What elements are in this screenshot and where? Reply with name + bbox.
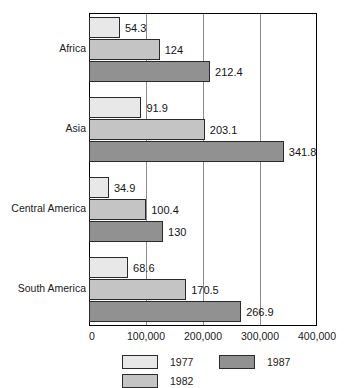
legend-swatch-1982 [122,374,158,388]
bar-value-label: 54.3 [120,22,146,33]
bar-asia-1982 [89,119,205,140]
bar-asia-1987 [89,141,284,162]
bar-value-label: 130 [163,226,186,237]
bar-value-label: 266.9 [241,306,274,317]
bar-row: 100.4 [89,199,317,220]
bar-value-label: 100.4 [146,204,179,215]
bar-africa-1982 [89,39,160,60]
bar-asia-1977 [89,97,141,118]
legend-swatch-1987 [219,355,255,369]
xtick-label-200000: 200,000 [184,330,222,342]
bar-africa-1977 [89,17,120,38]
bar-row: 130 [89,221,317,242]
bar-south-america-1977 [89,257,128,278]
bar-row: 266.9 [89,301,317,322]
category-label-africa: Africa [59,43,86,54]
bar-value-label: 68.6 [128,262,154,273]
bar-row: 212.4 [89,61,317,82]
category-label-central-america: Central America [11,203,86,214]
legend-label-1977: 1977 [170,357,193,368]
bar-value-label: 124 [160,44,183,55]
bar-value-label: 203.1 [205,124,238,135]
legend-label-1987: 1987 [267,357,290,368]
bar-row: 203.1 [89,119,317,140]
bar-value-label: 91.9 [141,102,167,113]
xtick-label-100000: 100,000 [127,330,165,342]
legend-item-1987: 1987 [219,355,290,369]
legend-item-1982: 1982 [122,374,193,388]
bar-row: 170.5 [89,279,317,300]
bar-value-label: 170.5 [186,284,219,295]
xtick-label-0: 0 [89,330,95,342]
bar-value-label: 34.9 [109,182,135,193]
bar-central-america-1987 [89,221,163,242]
xtick-label-300000: 300,000 [241,330,279,342]
bar-central-america-1977 [89,177,109,198]
bars-layer: 54.3 124 212.4 91.9 203.1 341.8 34.9 [89,13,317,326]
bar-row: 68.6 [89,257,317,278]
legend-item-1977: 1977 [122,355,193,369]
bar-chart: 54.3 124 212.4 91.9 203.1 341.8 34.9 [0,0,346,388]
category-label-asia: Asia [66,123,86,134]
bar-row: 91.9 [89,97,317,118]
category-label-south-america: South America [18,283,86,294]
bar-africa-1987 [89,61,210,82]
xtick-label-400000: 400,000 [298,330,336,342]
bar-row: 124 [89,39,317,60]
bar-value-label: 341.8 [284,146,317,157]
bar-central-america-1982 [89,199,146,220]
bar-south-america-1982 [89,279,186,300]
bar-row: 54.3 [89,17,317,38]
bar-value-label: 212.4 [210,66,243,77]
legend-label-1982: 1982 [170,376,193,387]
bar-south-america-1987 [89,301,241,322]
bar-row: 34.9 [89,177,317,198]
bar-row: 341.8 [89,141,317,162]
legend-swatch-1977 [122,355,158,369]
